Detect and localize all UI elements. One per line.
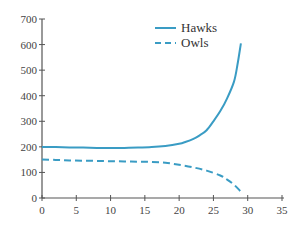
y-tick-label: 300 bbox=[21, 115, 38, 127]
x-tick-label: 15 bbox=[139, 204, 151, 216]
legend-hawks-label: Hawks bbox=[181, 20, 217, 35]
series-lines bbox=[42, 43, 241, 191]
series-owls-line bbox=[42, 160, 241, 192]
legend-owls-label: Owls bbox=[181, 35, 208, 50]
axes bbox=[42, 19, 284, 198]
y-tick-label: 0 bbox=[32, 192, 38, 204]
line-chart: 0100200300400500600700 05101520253035 Ha… bbox=[0, 0, 288, 227]
x-tick-label: 0 bbox=[39, 204, 45, 216]
y-tick-label: 100 bbox=[21, 166, 38, 178]
y-tick-label: 200 bbox=[21, 141, 38, 153]
y-tick-label: 500 bbox=[21, 64, 38, 76]
x-tick-label: 35 bbox=[277, 204, 289, 216]
x-tick-label: 30 bbox=[242, 204, 254, 216]
y-axis-ticks: 0100200300400500600700 bbox=[21, 13, 46, 204]
y-tick-label: 600 bbox=[21, 39, 38, 51]
x-tick-label: 10 bbox=[105, 204, 117, 216]
y-tick-label: 400 bbox=[21, 90, 38, 102]
series-hawks-line bbox=[42, 43, 241, 148]
x-tick-label: 5 bbox=[74, 204, 80, 216]
legend: Hawks Owls bbox=[155, 20, 217, 50]
x-tick-label: 25 bbox=[208, 204, 220, 216]
y-tick-label: 700 bbox=[21, 13, 38, 25]
x-tick-label: 20 bbox=[174, 204, 186, 216]
